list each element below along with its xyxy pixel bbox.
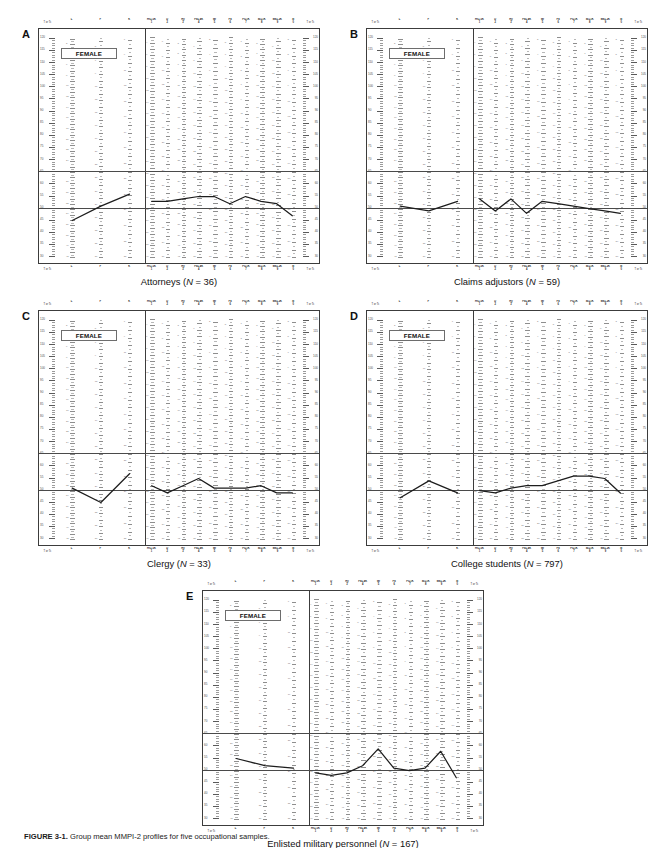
scale-number: 6 (222, 268, 238, 271)
scale-number: 7 (238, 21, 254, 24)
scale-number: 0 (285, 268, 301, 271)
scale-header-clinical: Sc+1K8 (254, 547, 270, 557)
scale-header-clinical: Pd+.4K4 (191, 547, 207, 557)
scale-number: 3 (339, 583, 355, 586)
scale-number: 0 (613, 550, 629, 553)
scale-number: 6 (222, 550, 238, 553)
scale-footer-row: T or TcT or TcLFKHs+.5K1D2Hy3Pd+.4K4Mf5P… (38, 547, 320, 557)
scale-number: 6 (550, 21, 566, 24)
panel-letter: B (350, 29, 358, 40)
scale-abbrev: K (279, 580, 308, 583)
scale-header-clinical: Mf5 (207, 300, 223, 310)
scale-number: 1 (472, 550, 488, 553)
scale-number: 5 (535, 550, 551, 553)
scale-header-clinical: Pt+1K7 (566, 300, 582, 310)
scale-header-validity: F (250, 580, 279, 590)
scale-header-clinical: Pd+.4K4 (191, 18, 207, 28)
scale-footer-row: T or TcT or TcLFKHs+.5K1D2Hy3Pd+.4K4Mf5P… (366, 547, 648, 557)
scale-header-validity: K (443, 547, 472, 557)
clinical-profile-line (480, 199, 621, 213)
scale-number: 4 (519, 268, 535, 271)
scale-number: 3 (503, 268, 519, 271)
scale-header-clinical: Ma+.2K9 (598, 18, 614, 28)
scale-abbrev: F (414, 18, 443, 21)
scale-header-validity: L (57, 18, 86, 28)
scale-number: 7 (566, 303, 582, 306)
scale-header-clinical: Pt+1K7 (402, 580, 418, 590)
scale-header-clinical: Si0 (285, 547, 301, 557)
scale-abbrev: K (279, 827, 308, 830)
scale-number: 0 (285, 303, 301, 306)
scale-abbrev: K (115, 547, 144, 550)
scale-number: 1 (144, 268, 160, 271)
scale-header-clinical: Si0 (449, 580, 465, 590)
scale-header-validity: K (115, 300, 144, 310)
scale-header-clinical: Hs+.5K1 (144, 300, 160, 310)
panel-caption-group: College students (451, 558, 521, 569)
clinical-profile-line (480, 476, 621, 493)
scale-header-clinical: Si0 (285, 18, 301, 28)
scale-number: 8 (254, 268, 270, 271)
scale-header-clinical: Ma+.2K9 (270, 300, 286, 310)
scale-header-validity: L (57, 547, 86, 557)
scale-number: 6 (386, 583, 402, 586)
panel-caption-n-symbol: N (529, 276, 536, 287)
profile-panel-e: ET or TcT or TcLFKHs+.5K1D2Hy3Pd+.4K4Mf5… (186, 580, 500, 848)
scale-number: 9 (270, 21, 286, 24)
scale-number: 3 (175, 303, 191, 306)
scale-number: 3 (175, 550, 191, 553)
scale-header-validity: K (115, 18, 144, 28)
scale-number: 8 (418, 583, 434, 586)
profile-line-overlay (367, 311, 647, 545)
scale-number: 8 (582, 303, 598, 306)
scale-header-clinical: Sc+1K8 (254, 18, 270, 28)
scale-header-row: T or TcT or TcLFKHs+.5K1D2Hy3Pd+.4K4Mf5P… (366, 18, 648, 28)
profile-line-overlay (203, 591, 483, 825)
scale-header-clinical: Hs+.5K1 (144, 265, 160, 275)
panel-caption-n-value: = 797 (533, 558, 559, 569)
panel-caption-n-value: = 36 (193, 276, 214, 287)
scale-header-validity: K (443, 300, 472, 310)
scale-header-clinical: Sc+1K8 (418, 580, 434, 590)
scale-number: 1 (472, 268, 488, 271)
panel-caption-n-symbol: N (186, 276, 193, 287)
scale-header-clinical: Pa6 (550, 547, 566, 557)
scale-number: 4 (355, 583, 371, 586)
scale-header-clinical: Mf5 (207, 265, 223, 275)
scale-number: 2 (323, 583, 339, 586)
panel-caption-group: Clergy (147, 558, 174, 569)
scale-header-clinical: Si0 (613, 18, 629, 28)
scale-number: 8 (254, 21, 270, 24)
scale-number: 3 (503, 303, 519, 306)
figure-caption-label: FIGURE 3-1. (24, 832, 68, 841)
validity-profile-line (72, 194, 129, 220)
scale-header-clinical: D2 (159, 547, 175, 557)
scale-abbrev: L (385, 300, 414, 303)
scale-header-clinical: Hs+.5K1 (144, 18, 160, 28)
scale-header-row: T or TcT or TcLFKHs+.5K1D2Hy3Pd+.4K4Mf5P… (202, 580, 484, 590)
scale-header-clinical: Pa6 (222, 18, 238, 28)
scale-number: 0 (285, 550, 301, 553)
scale-number: 7 (566, 268, 582, 271)
figure-caption-text: Group mean MMPI-2 profiles for five occu… (70, 832, 270, 841)
scale-header-clinical: Hy3 (175, 18, 191, 28)
validity-profile-line (400, 201, 457, 211)
scale-number: 3 (503, 550, 519, 553)
scale-number: 1 (144, 21, 160, 24)
profile-line-overlay (39, 311, 319, 545)
scale-number: 5 (207, 21, 223, 24)
scale-header-validity: F (414, 547, 443, 557)
scale-number: 5 (535, 21, 551, 24)
validity-profile-line (400, 481, 457, 498)
scale-abbrev: K (443, 265, 472, 268)
scale-header-clinical: Pt+1K7 (566, 265, 582, 275)
scale-header-clinical: Hs+.5K1 (472, 265, 488, 275)
scale-header-clinical: D2 (487, 18, 503, 28)
scale-header-clinical: Pt+1K7 (566, 18, 582, 28)
scale-header-clinical: Pt+1K7 (238, 18, 254, 28)
profile-sheet: 3035404550556065707580859095100105110115… (38, 310, 320, 546)
scale-abbrev: K (115, 265, 144, 268)
scale-header-validity: K (115, 547, 144, 557)
profile-panel-c: CT or TcT or TcLFKHs+.5K1D2Hy3Pd+.4K4Mf5… (22, 300, 336, 575)
scale-header-clinical: Hy3 (503, 265, 519, 275)
